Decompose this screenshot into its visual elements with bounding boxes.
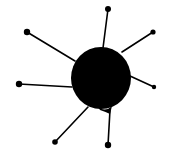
spoke-line-lower-left <box>55 107 88 142</box>
spoke-dot-right <box>152 85 156 89</box>
spoke-line-top <box>103 9 108 48</box>
spoke-line-right <box>130 76 154 87</box>
spoke-line-left <box>19 84 72 87</box>
core-blot <box>71 47 131 109</box>
spoke-line-upper-right <box>122 32 153 52</box>
ink-figure-canvas <box>0 0 171 163</box>
spoke-dot-left <box>16 81 22 87</box>
spoke-dot-top <box>105 6 111 12</box>
radiating-ink-blot-icon <box>0 0 171 163</box>
spoke-line-bottom <box>108 110 110 145</box>
spoke-dot-lower-left <box>52 139 58 145</box>
spoke-dot-upper-right <box>150 29 155 34</box>
spoke-dot-bottom <box>105 142 111 148</box>
spoke-line-upper-left <box>27 32 75 61</box>
spoke-dot-upper-left <box>24 29 30 35</box>
